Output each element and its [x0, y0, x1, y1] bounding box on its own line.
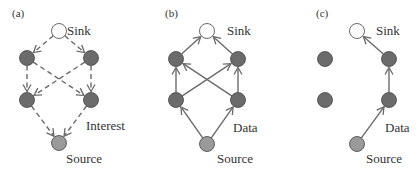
- relay-node-ur: [382, 52, 397, 67]
- edge-lr-to-source: [64, 106, 86, 136]
- interest-label-a: Interest: [86, 118, 125, 133]
- panel-b: (b) Sink Data Source: [165, 7, 258, 166]
- source-label-c: Source: [366, 151, 402, 166]
- relay-node-ul: [20, 51, 35, 66]
- edge-source-to-ll: [181, 107, 203, 138]
- edge-ur-to-sink: [363, 37, 383, 54]
- data-label-b: Data: [233, 120, 258, 135]
- source-node-source: [52, 136, 67, 151]
- sink-node-sink: [200, 24, 215, 39]
- edge-source-to-lr: [361, 107, 384, 138]
- panel-a: (a) Sink Interest Source: [12, 7, 125, 166]
- relay-node-ul: [169, 52, 184, 67]
- sink-label-a: Sink: [67, 23, 91, 38]
- source-label-b: Source: [217, 151, 253, 166]
- relay-node-ll: [20, 93, 35, 108]
- relay-node-lr: [382, 93, 397, 108]
- source-node-source: [350, 137, 365, 152]
- sink-label-b: Sink: [227, 23, 251, 38]
- relay-node-ul: [318, 52, 333, 67]
- edge-sink-to-ul: [33, 36, 53, 53]
- relay-node-ur: [231, 52, 246, 67]
- sink-node-sink: [350, 24, 365, 39]
- source-node-source: [200, 137, 215, 152]
- sink-label-c: Sink: [376, 23, 400, 38]
- directed-diffusion-diagram: (a) Sink Interest Source (b) Sink Data S…: [0, 0, 419, 169]
- relay-node-ll: [169, 93, 184, 108]
- edges-a: [27, 36, 91, 136]
- panel-label-c: (c): [316, 7, 329, 20]
- panel-label-a: (a): [12, 7, 25, 20]
- edge-ur-to-sink: [213, 37, 232, 54]
- source-label-a: Source: [66, 151, 102, 166]
- panel-c: (c) Sink Data Source: [316, 7, 410, 166]
- relay-node-ll: [318, 93, 333, 108]
- panel-label-b: (b): [165, 7, 178, 20]
- relay-node-ur: [84, 51, 99, 66]
- relay-node-lr: [231, 93, 246, 108]
- edge-ul-to-sink: [182, 37, 201, 54]
- edges-b: [176, 37, 238, 138]
- edge-ll-to-source: [31, 106, 53, 136]
- data-label-c: Data: [385, 120, 410, 135]
- edge-source-to-lr: [211, 107, 233, 138]
- relay-node-lr: [84, 93, 99, 108]
- sink-node-sink: [52, 24, 67, 39]
- edge-sink-to-ur: [65, 36, 85, 53]
